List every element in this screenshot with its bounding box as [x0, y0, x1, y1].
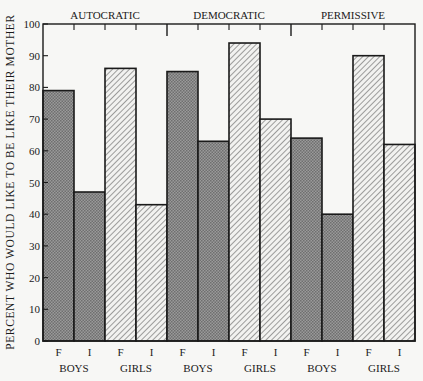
y-tick-label: 20	[29, 272, 41, 284]
bar-autocratic-girls-i: AUTOCRATIC GIRLS I: 43	[136, 205, 167, 341]
y-tick-label: 90	[29, 50, 41, 62]
y-tick-label: 100	[24, 18, 41, 30]
group-header-democratic: DEMOCRATIC	[193, 9, 265, 21]
bar-label: F	[179, 346, 185, 358]
bar-democratic-boys-i: DEMOCRATIC BOYS I: 63	[198, 141, 229, 341]
bar-label: I	[212, 346, 216, 358]
sex-label: BOYS	[307, 362, 336, 374]
bar-permissive-boys-i: PERMISSIVE BOYS I: 40	[322, 214, 353, 341]
bar-democratic-boys-f: DEMOCRATIC BOYS F: 85	[167, 72, 198, 341]
group-headers: AUTOCRATICDEMOCRATICPERMISSIVE	[70, 9, 385, 21]
bars: AUTOCRATIC BOYS F: 79AUTOCRATIC BOYS I: …	[43, 43, 415, 341]
bar-permissive-girls-f: PERMISSIVE GIRLS F: 90	[353, 56, 384, 341]
bar-label: I	[88, 346, 92, 358]
sex-label: BOYS	[59, 362, 88, 374]
bar-permissive-boys-f: PERMISSIVE BOYS F: 64	[291, 138, 322, 341]
bar-label: F	[365, 346, 371, 358]
y-tick-label: 50	[29, 177, 41, 189]
y-tick-label: 0	[35, 335, 41, 347]
bar-democratic-girls-f: DEMOCRATIC GIRLS F: 94	[229, 43, 260, 341]
bar-label: I	[336, 346, 340, 358]
x-axis-labels: FIFIFIFIFIFIBOYSGIRLSBOYSGIRLSBOYSGIRLS	[55, 346, 401, 374]
y-tick-label: 40	[29, 208, 41, 220]
y-tick-label: 80	[29, 81, 41, 93]
group-header-permissive: PERMISSIVE	[321, 9, 385, 21]
bar-label: F	[303, 346, 309, 358]
bar-permissive-girls-i: PERMISSIVE GIRLS I: 62	[384, 144, 415, 341]
bar-label: F	[241, 346, 247, 358]
sex-label: GIRLS	[244, 362, 276, 374]
y-axis-title: PERCENT WHO WOULD LIKE TO BE LIKE THEIR …	[4, 14, 16, 350]
bar-democratic-girls-i: DEMOCRATIC GIRLS I: 70	[260, 119, 291, 341]
bar-label: I	[398, 346, 402, 358]
bar-label: F	[117, 346, 123, 358]
bar-autocratic-boys-i: AUTOCRATIC BOYS I: 47	[74, 192, 105, 341]
y-tick-label: 30	[29, 240, 41, 252]
y-tick-label: 10	[29, 303, 41, 315]
y-tick-label: 60	[29, 145, 41, 157]
bar-autocratic-girls-f: AUTOCRATIC GIRLS F: 86	[105, 68, 136, 341]
y-tick-label: 70	[29, 113, 41, 125]
sex-label: GIRLS	[368, 362, 400, 374]
bar-chart: AUTOCRATIC BOYS F: 79AUTOCRATIC BOYS I: …	[0, 0, 423, 381]
sex-label: BOYS	[183, 362, 212, 374]
bar-autocratic-boys-f: AUTOCRATIC BOYS F: 79	[43, 91, 74, 341]
bar-label: I	[274, 346, 278, 358]
bar-label: I	[150, 346, 154, 358]
group-header-autocratic: AUTOCRATIC	[70, 9, 139, 21]
bar-label: F	[55, 346, 61, 358]
sex-label: GIRLS	[120, 362, 152, 374]
